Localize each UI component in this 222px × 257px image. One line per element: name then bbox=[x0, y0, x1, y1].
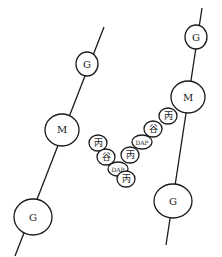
svg-text:G: G bbox=[169, 196, 177, 207]
right-m-node: M bbox=[171, 81, 205, 113]
peptide-crossbridge: 丙 谷 DAP 丙 丙 DAP 谷 丙 bbox=[89, 108, 177, 187]
svg-text:DAP: DAP bbox=[135, 139, 148, 146]
svg-text:丙: 丙 bbox=[164, 111, 173, 121]
right-g-node-top: G bbox=[185, 25, 207, 49]
peptidoglycan-diagram: G M G G M G 丙 谷 DAP 丙 bbox=[0, 0, 222, 257]
svg-text:G: G bbox=[83, 59, 91, 70]
dap-node-2: DAP bbox=[132, 135, 152, 149]
ala-node-4: 丙 bbox=[159, 108, 177, 124]
ala-node-3: 丙 bbox=[121, 147, 139, 163]
svg-text:丙: 丙 bbox=[122, 174, 131, 184]
left-g-node-bottom: G bbox=[14, 199, 52, 235]
svg-text:谷: 谷 bbox=[102, 152, 111, 162]
glu-node-2: 谷 bbox=[144, 121, 162, 137]
svg-text:M: M bbox=[183, 92, 193, 103]
left-m-node: M bbox=[45, 114, 79, 146]
left-g-node-top: G bbox=[76, 52, 98, 76]
ala-node-2: 丙 bbox=[117, 171, 135, 187]
svg-text:丙: 丙 bbox=[126, 150, 135, 160]
svg-text:谷: 谷 bbox=[149, 124, 158, 134]
right-g-node-bottom: G bbox=[154, 184, 192, 218]
svg-text:G: G bbox=[192, 32, 200, 43]
svg-text:M: M bbox=[57, 124, 67, 135]
svg-text:丙: 丙 bbox=[94, 138, 103, 148]
svg-text:G: G bbox=[29, 212, 37, 223]
